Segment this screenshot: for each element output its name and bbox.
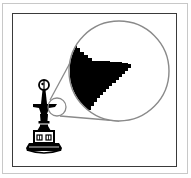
raster-magnification-illustration — [0, 0, 191, 178]
